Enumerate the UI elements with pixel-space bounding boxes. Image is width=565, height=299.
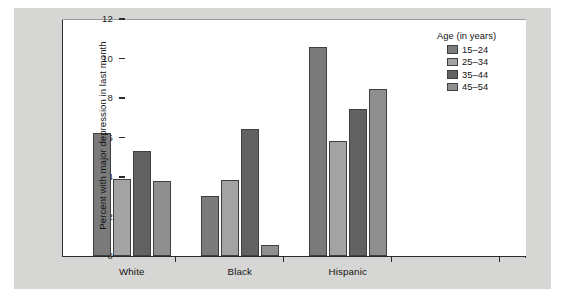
legend-swatch [447, 70, 458, 79]
bar [241, 129, 259, 256]
legend-swatch [447, 45, 458, 54]
legend-entry-label: 25–34 [462, 57, 488, 67]
bar [201, 196, 219, 256]
legend-swatch [447, 58, 458, 67]
legend-entry: 45–54 [437, 82, 529, 93]
x-axis-group-label: White [119, 266, 145, 277]
legend-entry-label: 15–24 [462, 45, 488, 55]
bar [153, 181, 171, 256]
legend-swatch [447, 83, 458, 92]
bar [309, 47, 327, 256]
bar [349, 109, 367, 256]
y-axis-tick-label: 8 [108, 91, 113, 104]
bar [329, 141, 347, 256]
legend-entry-label: 45–54 [462, 82, 488, 92]
legend-entry: 35–44 [437, 69, 529, 80]
x-axis-group-label: Hispanic [329, 266, 367, 277]
legend-title: Age (in years) [437, 30, 529, 41]
legend-entry: 15–24 [437, 44, 529, 55]
bar [113, 179, 131, 256]
y-axis-tick-mark [119, 58, 125, 59]
bar [369, 89, 387, 256]
y-axis-tick-mark [119, 97, 125, 98]
y-axis-tick-mark [119, 176, 125, 177]
legend-entries: 15–2425–3435–4445–54 [437, 44, 529, 93]
x-axis-separator-tick [499, 256, 500, 262]
y-axis-title: Percent with major depression in last mo… [97, 16, 108, 256]
bar [221, 180, 239, 256]
bar [133, 151, 151, 256]
bar [261, 245, 279, 256]
figure: 024681012 WhiteBlackHispanic Percent wit… [0, 0, 565, 299]
legend-entry: 25–34 [437, 57, 529, 68]
y-axis-tick-mark [119, 137, 125, 138]
x-axis-group-label: Black [228, 266, 252, 277]
x-axis-separator-tick [175, 256, 176, 262]
x-axis-separator-tick [391, 256, 392, 262]
legend: Age (in years) 15–2425–3435–4445–54 [437, 30, 529, 93]
legend-entry-label: 35–44 [462, 70, 488, 80]
y-axis-tick-mark [119, 18, 125, 19]
x-axis-separator-tick [283, 256, 284, 262]
